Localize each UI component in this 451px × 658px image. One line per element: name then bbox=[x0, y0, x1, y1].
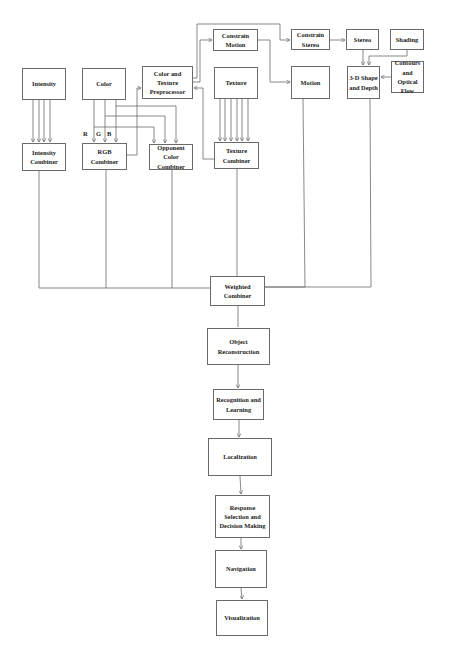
node-constrain-motion: Constrain Motion bbox=[213, 29, 258, 51]
node-label: Constrain Motion bbox=[215, 31, 256, 50]
node-label: Contours and Optical Flow bbox=[393, 58, 422, 95]
node-rgb-combiner: RGB Combiner bbox=[82, 143, 127, 170]
node-label: Constrain Stereo bbox=[293, 30, 328, 49]
node-intensity: Intensity bbox=[22, 68, 66, 100]
node-label: Color and Texture Preprocessor bbox=[144, 69, 191, 97]
channel-label-r: R bbox=[83, 130, 88, 137]
node-contours-optical-flow: Contours and Optical Flow bbox=[391, 61, 424, 93]
node-visualization: Visualization bbox=[216, 600, 268, 636]
node-texture: Texture bbox=[214, 67, 258, 99]
node-label: Motion bbox=[301, 78, 321, 87]
node-texture-combiner: Texture Combiner bbox=[214, 142, 259, 169]
node-label: Response Selection and Decision Making bbox=[217, 503, 268, 531]
node-weighted-combiner: Weighted Combiner bbox=[210, 276, 265, 306]
node-label: Color bbox=[96, 79, 112, 88]
node-label: Navigation bbox=[226, 564, 256, 573]
node-label: Object Reconstruction bbox=[209, 337, 268, 356]
node-constrain-stereo: Constrain Stereo bbox=[291, 29, 330, 50]
node-shading: Shading bbox=[390, 29, 424, 50]
node-label: Texture bbox=[226, 78, 247, 87]
node-motion: Motion bbox=[291, 66, 330, 99]
node-label: Visualization bbox=[224, 613, 260, 622]
node-3d-shape-depth: 3-D Shape and Depth bbox=[347, 66, 380, 99]
node-intensity-combiner: Intensity Combiner bbox=[22, 143, 66, 171]
node-label: RGB Combiner bbox=[84, 147, 125, 166]
vision-pipeline-diagram: R G B Intensity Color Color and Texture … bbox=[0, 0, 451, 658]
node-response-selection: Response Selection and Decision Making bbox=[215, 495, 270, 538]
node-localization: Localization bbox=[208, 438, 272, 476]
node-stereo: Stereo bbox=[346, 29, 379, 50]
node-label: Recognition and Learning bbox=[215, 395, 262, 414]
node-object-reconstruction: Object Reconstruction bbox=[207, 328, 270, 365]
channel-label-g: G bbox=[96, 130, 101, 137]
channel-label-b: B bbox=[107, 130, 111, 137]
node-label: Texture Combiner bbox=[216, 146, 257, 165]
node-color-texture-preprocessor: Color and Texture Preprocessor bbox=[142, 66, 193, 99]
node-opponent-color-combiner: Opponent Color Combiner bbox=[149, 144, 193, 170]
node-recognition-learning: Recognition and Learning bbox=[213, 389, 264, 420]
node-navigation: Navigation bbox=[215, 550, 267, 588]
node-label: Weighted Combiner bbox=[212, 282, 263, 301]
node-label: Intensity bbox=[32, 79, 56, 88]
node-label: Intensity Combiner bbox=[24, 148, 64, 167]
node-label: 3-D Shape and Depth bbox=[349, 73, 378, 92]
node-label: Opponent Color Combiner bbox=[151, 143, 191, 171]
node-label: Localization bbox=[223, 452, 257, 461]
node-label: Stereo bbox=[354, 35, 371, 44]
node-label: Shading bbox=[396, 35, 418, 44]
node-color: Color bbox=[82, 68, 126, 100]
